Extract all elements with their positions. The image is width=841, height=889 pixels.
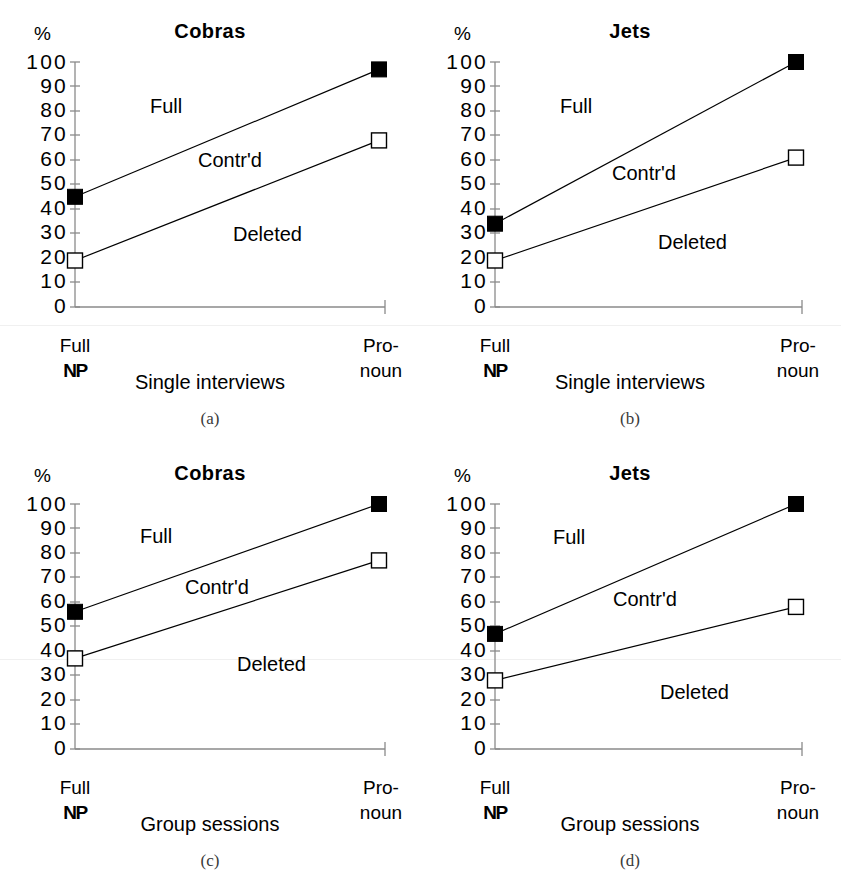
region-label-deleted: Deleted	[660, 682, 729, 702]
series-full-marker-start	[68, 604, 83, 619]
series-contracted-marker-start	[68, 253, 83, 268]
region-label-deleted: Deleted	[237, 654, 306, 674]
region-label-full: Full	[553, 527, 585, 547]
series-contracted-marker-start	[488, 253, 503, 268]
region-label-contracted: Contr'd	[613, 589, 677, 609]
series-contracted-marker-end	[372, 133, 387, 148]
series-contracted-marker-end	[789, 150, 804, 165]
region-label-deleted: Deleted	[658, 232, 727, 252]
x-axis-title: Group sessions	[0, 814, 420, 834]
series-contracted-marker-end	[372, 553, 387, 568]
series-contracted-marker-end	[789, 599, 804, 614]
panel-caption: (d)	[420, 852, 840, 869]
panel-caption: (b)	[420, 410, 840, 427]
series-full-marker-end	[789, 497, 804, 512]
x-category-line1: Full	[35, 775, 115, 800]
x-axis-title: Group sessions	[420, 814, 840, 834]
region-label-full: Full	[140, 526, 172, 546]
series-full-marker-end	[789, 55, 804, 70]
region-label-contracted: Contr'd	[612, 163, 676, 183]
figure-four-panel-chart: % Cobras 100 90 80 70 60 50 40 30 20 10 …	[0, 0, 841, 889]
x-category-line1: Full	[35, 333, 115, 358]
region-label-contracted: Contr'd	[185, 577, 249, 597]
series-full-marker-start	[488, 216, 503, 231]
region-label-deleted: Deleted	[233, 224, 302, 244]
x-category-line1: Full	[455, 775, 535, 800]
series-contracted-line	[495, 607, 796, 681]
series-full-line	[495, 62, 796, 224]
series-full-marker-end	[372, 497, 387, 512]
plot-area-d	[420, 442, 841, 782]
series-full-marker-start	[68, 189, 83, 204]
series-contracted-marker-start	[488, 673, 503, 688]
panel-a: % Cobras 100 90 80 70 60 50 40 30 20 10 …	[0, 0, 420, 444]
plot-area-c	[0, 442, 420, 782]
panel-c: % Cobras 100 90 80 70 60 50 40 30 20 10 …	[0, 442, 420, 886]
x-category-line1: Pro-	[345, 775, 417, 800]
series-contracted-marker-start	[68, 651, 83, 666]
region-label-full: Full	[560, 96, 592, 116]
series-full-marker-start	[488, 626, 503, 641]
x-category-line1: Pro-	[345, 333, 417, 358]
panel-b: % Jets 100 90 80 70 60 50 40 30 20 10 0	[420, 0, 840, 444]
panel-caption: (c)	[0, 852, 420, 869]
region-label-contracted: Contr'd	[198, 150, 262, 170]
x-axis-title: Single interviews	[420, 372, 840, 392]
x-axis-title: Single interviews	[0, 372, 420, 392]
panel-caption: (a)	[0, 410, 420, 427]
series-full-marker-end	[372, 62, 387, 77]
x-category-line1: Pro-	[762, 333, 834, 358]
panel-d: % Jets 100 90 80 70 60 50 40 30 20 10 0	[420, 442, 840, 886]
x-category-line1: Full	[455, 333, 535, 358]
series-full-line	[75, 69, 379, 196]
series-full-line	[495, 504, 796, 634]
region-label-full: Full	[150, 96, 182, 116]
x-category-line1: Pro-	[762, 775, 834, 800]
